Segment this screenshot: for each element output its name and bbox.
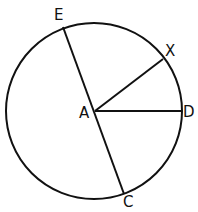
segment-AX	[95, 59, 163, 111]
label-C: C	[123, 193, 133, 211]
label-X: X	[165, 42, 175, 60]
circle-diagram: E X A D C	[0, 0, 198, 212]
label-E: E	[54, 6, 63, 24]
label-A: A	[79, 104, 90, 122]
label-D: D	[183, 103, 195, 121]
